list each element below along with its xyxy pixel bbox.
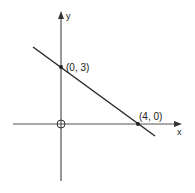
y-axis: y	[58, 11, 71, 181]
point-dot-icon	[59, 65, 63, 69]
point-dot-icon	[136, 122, 140, 126]
coordinate-graph: x y (0, 3) (4, 0)	[0, 0, 195, 193]
point-label-0-3: (0, 3)	[66, 62, 89, 73]
point-y-intercept: (0, 3)	[59, 62, 89, 73]
point-label-4-0: (4, 0)	[139, 111, 162, 122]
x-axis: x	[13, 121, 182, 137]
x-axis-label: x	[177, 127, 182, 137]
y-axis-label: y	[66, 11, 71, 21]
y-axis-arrow-icon	[58, 11, 64, 19]
